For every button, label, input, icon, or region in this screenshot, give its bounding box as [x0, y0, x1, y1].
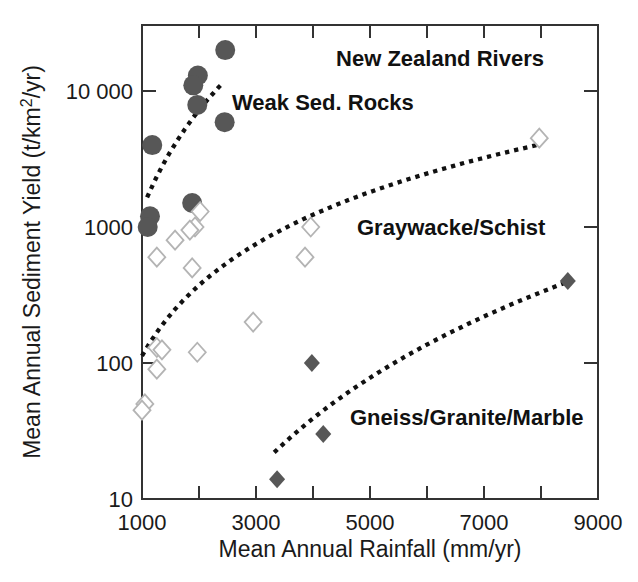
y-tick-label-100: 100 [96, 351, 133, 376]
scatter-plot-figure: 1000300050007000900010100100010 000Mean … [0, 0, 638, 582]
x-axis-label: Mean Annual Rainfall (mm/yr) [219, 536, 522, 562]
y-tick-label-10: 10 [109, 487, 133, 512]
y-tick-label-1000: 1000 [84, 215, 133, 240]
x-tick-label-3000: 3000 [232, 510, 281, 535]
point-weak-sed-rocks [142, 135, 162, 155]
y-tick-label-10000: 10 000 [66, 79, 133, 104]
x-tick-label-7000: 7000 [460, 510, 509, 535]
annotation-graywacke-schist: Graywacke/Schist [357, 215, 546, 240]
annotation-weak-sed-rocks: Weak Sed. Rocks [232, 90, 414, 115]
chart-canvas: 1000300050007000900010100100010 000Mean … [0, 0, 638, 582]
point-weak-sed-rocks [187, 95, 207, 115]
point-weak-sed-rocks [215, 112, 235, 132]
annotation-gneiss-granite-marble: Gneiss/Granite/Marble [350, 405, 584, 430]
x-tick-label-5000: 5000 [346, 510, 395, 535]
point-weak-sed-rocks [183, 75, 203, 95]
point-weak-sed-rocks [138, 217, 158, 237]
x-tick-label-1000: 1000 [118, 510, 167, 535]
y-axis-label: Mean Annual Sediment Yield (t/km2/yr) [18, 65, 45, 459]
chart-title: New Zealand Rivers [336, 46, 544, 71]
point-weak-sed-rocks [215, 40, 235, 60]
x-tick-label-9000: 9000 [574, 510, 623, 535]
